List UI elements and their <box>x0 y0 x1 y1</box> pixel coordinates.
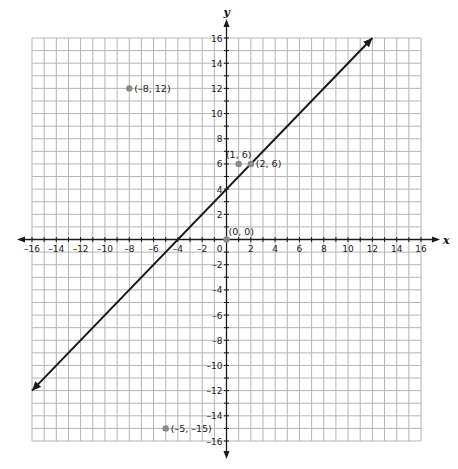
point-label: (–5, –15) <box>171 423 212 434</box>
y-axis-label: y <box>223 6 232 19</box>
y-tick-label: 14 <box>211 59 223 69</box>
origin-label: 0 <box>217 244 223 254</box>
y-tick-label: 8 <box>217 134 223 144</box>
y-axis-arrow-down-icon <box>224 451 230 459</box>
x-tick-label: –8 <box>124 244 135 254</box>
x-tick-label: 10 <box>342 244 354 254</box>
data-point <box>235 161 241 167</box>
point-label: (2, 6) <box>256 158 282 169</box>
x-tick-label: –4 <box>173 244 184 254</box>
y-tick-label: –12 <box>207 386 223 396</box>
x-axis-arrow-right-icon <box>432 237 440 243</box>
y-tick-label: –6 <box>212 311 223 321</box>
y-tick-label: 6 <box>217 159 223 169</box>
x-tick-label: 12 <box>367 244 378 254</box>
point-label: (–8, 12) <box>134 83 170 94</box>
y-axis-arrow-up-icon <box>224 19 230 27</box>
x-tick-label: –14 <box>48 244 64 254</box>
x-tick-label: 16 <box>415 244 427 254</box>
coordinate-plane: –16–14–12–10–8–6–4–2246810121416–16–14–1… <box>0 0 458 469</box>
point-label: (1, 6) <box>226 149 252 160</box>
x-tick-label: –2 <box>197 244 207 254</box>
x-tick-label: –10 <box>97 244 113 254</box>
y-tick-label: 16 <box>211 34 223 44</box>
x-tick-label: 4 <box>272 244 278 254</box>
x-tick-label: –16 <box>24 244 40 254</box>
x-axis-label: x <box>442 234 450 247</box>
y-tick-label: –16 <box>207 437 223 447</box>
x-tick-label: 14 <box>391 244 403 254</box>
data-point <box>163 425 169 431</box>
point-label: (0, 0) <box>229 226 255 237</box>
y-tick-label: –10 <box>207 361 223 371</box>
y-tick-label: 10 <box>211 109 223 119</box>
x-tick-label: 8 <box>321 244 327 254</box>
x-tick-label: –6 <box>148 244 159 254</box>
x-tick-label: 6 <box>297 244 303 254</box>
y-tick-label: –8 <box>212 336 223 346</box>
data-point <box>126 85 132 91</box>
y-tick-label: –2 <box>212 260 222 270</box>
x-axis-arrow-left-icon <box>17 237 25 243</box>
y-tick-label: 2 <box>217 210 223 220</box>
y-tick-label: –4 <box>212 285 223 295</box>
x-tick-label: –12 <box>73 244 89 254</box>
data-point <box>223 236 229 242</box>
x-tick-label: 2 <box>248 244 254 254</box>
y-tick-label: 12 <box>211 84 222 94</box>
points: (–8, 12)(1, 6)(2, 6)(0, 0)(–5, –15) <box>126 83 281 434</box>
y-tick-label: –14 <box>207 411 223 421</box>
data-point <box>248 161 254 167</box>
